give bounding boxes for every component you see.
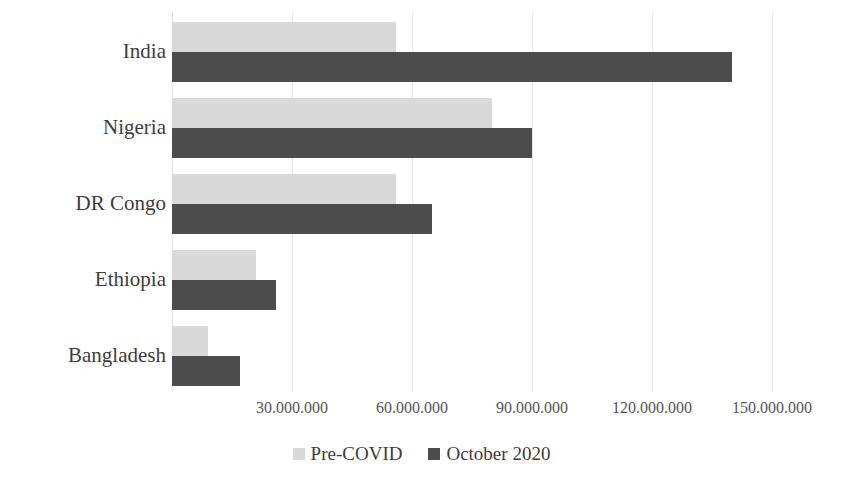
bar-group (172, 326, 772, 386)
plot-area (172, 12, 772, 392)
category-label-bangladesh: Bangladesh (6, 345, 166, 366)
bar-group (172, 22, 772, 82)
value-axis-labels: 30.000.00060.000.00090.000.000120.000.00… (0, 398, 843, 424)
value-axis-tick-label: 60.000.000 (376, 398, 448, 418)
chart-legend: Pre-COVIDOctober 2020 (0, 444, 843, 463)
category-label-ethiopia: Ethiopia (6, 269, 166, 290)
bar-ethiopia-pre-covid[interactable] (172, 250, 256, 280)
bar-dr-congo-october-2020[interactable] (172, 204, 432, 234)
bar-dr-congo-pre-covid[interactable] (172, 174, 396, 204)
bar-india-october-2020[interactable] (172, 52, 732, 82)
bar-bangladesh-pre-covid[interactable] (172, 326, 208, 356)
bar-nigeria-october-2020[interactable] (172, 128, 532, 158)
legend-swatch-icon (293, 448, 305, 460)
legend-label: Pre-COVID (311, 444, 403, 463)
category-label-india: India (6, 41, 166, 62)
value-axis-tick-label: 90.000.000 (496, 398, 568, 418)
legend-item-pre-covid[interactable]: Pre-COVID (293, 444, 403, 463)
legend-swatch-icon (428, 448, 440, 460)
bar-bangladesh-october-2020[interactable] (172, 356, 240, 386)
category-label-dr-congo: DR Congo (6, 193, 166, 214)
bar-nigeria-pre-covid[interactable] (172, 98, 492, 128)
bar-group (172, 98, 772, 158)
legend-item-october-2020[interactable]: October 2020 (428, 444, 550, 463)
bar-ethiopia-october-2020[interactable] (172, 280, 276, 310)
value-axis-tick-label: 150.000.000 (732, 398, 812, 418)
gridline (772, 12, 773, 392)
category-axis: IndiaNigeriaDR CongoEthiopiaBangladesh (0, 12, 166, 392)
bar-india-pre-covid[interactable] (172, 22, 396, 52)
bar-chart: IndiaNigeriaDR CongoEthiopiaBangladesh 3… (0, 0, 843, 490)
bar-group (172, 250, 772, 310)
value-axis-tick-label: 30.000.000 (256, 398, 328, 418)
legend-label: October 2020 (446, 444, 550, 463)
bar-group (172, 174, 772, 234)
category-label-nigeria: Nigeria (6, 117, 166, 138)
value-axis-tick-label: 120.000.000 (612, 398, 692, 418)
